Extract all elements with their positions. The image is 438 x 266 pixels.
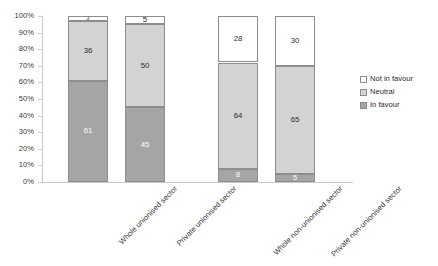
y-axis-tick-label: 50%: [19, 95, 34, 103]
y-axis-tick-label: 70%: [19, 62, 34, 70]
y-axis-tick-mark: [38, 182, 42, 183]
legend-item-label: In favour: [370, 101, 400, 109]
bar-segment[interactable]: 36: [68, 21, 108, 81]
y-axis-tick-label: 100%: [15, 12, 34, 20]
legend-item[interactable]: Neutral: [360, 87, 413, 97]
bar-column[interactable]: 61363: [68, 16, 108, 182]
bar-segment[interactable]: 65: [275, 66, 315, 174]
bar-segment[interactable]: 45: [125, 107, 165, 182]
y-axis-tick-label: 10%: [19, 161, 34, 169]
bar-segment[interactable]: 30: [275, 16, 315, 66]
bar-segment-value-label: 65: [291, 116, 300, 124]
bar-segment[interactable]: 3: [68, 16, 108, 21]
bar-segment-value-label: 36: [84, 47, 93, 55]
y-axis-tick-label: 0%: [23, 178, 34, 186]
y-axis-tick-label: 30%: [19, 128, 34, 136]
y-axis-tick-label: 90%: [19, 29, 34, 37]
bar-segment-value-label: 61: [84, 127, 93, 135]
bar-segment-value-label: 3: [87, 16, 90, 21]
y-axis-tick-label: 20%: [19, 145, 34, 153]
plot-area: 61363455058642856530: [42, 16, 352, 182]
x-axis-category-label: Private unionised sector: [175, 184, 239, 248]
x-axis-category-label: Whole unionised sector: [117, 184, 179, 246]
bar-segment-value-label: 45: [141, 141, 150, 149]
bar-segment[interactable]: 61: [68, 81, 108, 182]
legend-swatch-icon: [360, 102, 367, 109]
chart-legend: Not in favourNeutralIn favour: [360, 74, 413, 113]
x-axis-category-label: Private non-unionised sector: [329, 184, 403, 258]
bar-segment-value-label: 30: [291, 37, 300, 45]
bar-segment[interactable]: 50: [125, 24, 165, 107]
bar-segment[interactable]: 28: [218, 16, 258, 62]
y-axis-tick-label: 40%: [19, 112, 34, 120]
bar-segment-value-label: 64: [234, 112, 243, 120]
y-axis-tick-label: 80%: [19, 45, 34, 53]
legend-swatch-icon: [360, 89, 367, 96]
bar-segment-value-label: 5: [143, 16, 147, 24]
bar-segment[interactable]: 8: [218, 169, 258, 182]
legend-item-label: Not in favour: [370, 75, 413, 83]
bar-column[interactable]: 86428: [218, 16, 258, 182]
bar-series-group: 61363455058642856530: [42, 16, 352, 182]
bar-segment-value-label: 8: [236, 171, 240, 179]
legend-swatch-icon: [360, 76, 367, 83]
bar-segment[interactable]: 5: [275, 174, 315, 182]
bar-column[interactable]: 56530: [275, 16, 315, 182]
bar-segment[interactable]: 5: [125, 16, 165, 24]
bar-segment-value-label: 50: [141, 62, 150, 70]
stacked-bar-chart: 100%90%80%70%60%50%40%30%20%10%0% 613634…: [0, 0, 438, 266]
legend-item-label: Neutral: [370, 88, 394, 96]
bar-column[interactable]: 45505: [125, 16, 165, 182]
bar-segment[interactable]: 64: [218, 63, 258, 169]
bar-segment-value-label: 5: [293, 174, 297, 182]
bar-segment-value-label: 28: [234, 35, 243, 43]
x-axis-category-labels: Whole unionised sectorPrivate unionised …: [42, 184, 352, 264]
legend-item[interactable]: In favour: [360, 100, 413, 110]
y-axis-tick-labels: 100%90%80%70%60%50%40%30%20%10%0%: [0, 16, 38, 183]
y-axis-tick-label: 60%: [19, 78, 34, 86]
x-axis-line: [42, 182, 353, 183]
legend-item[interactable]: Not in favour: [360, 74, 413, 84]
